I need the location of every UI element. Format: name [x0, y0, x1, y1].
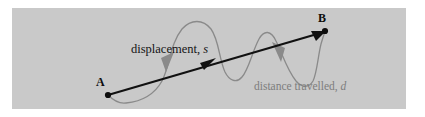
- displacement-label-text: displacement,: [131, 42, 200, 56]
- distance-label-symbol: d: [341, 80, 347, 92]
- displacement-label-symbol: s: [203, 42, 208, 56]
- point-b-dot: [322, 28, 328, 34]
- distance-travelled-label: distance travelled, d: [254, 81, 346, 93]
- displacement-label: displacement, s: [131, 43, 208, 56]
- distance-label-text: distance travelled,: [254, 80, 338, 92]
- point-b-label: B: [318, 12, 326, 24]
- point-a-dot: [105, 92, 111, 98]
- point-a-label: A: [96, 76, 105, 88]
- diagram-canvas: [0, 0, 425, 117]
- figure-root: A B displacement, s distance travelled, …: [0, 0, 425, 117]
